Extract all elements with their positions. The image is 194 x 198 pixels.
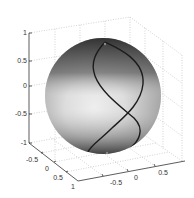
x-tick-label: 0 (45, 165, 49, 172)
sphere-plot: 1 0.5 0 -0.5 -1 -0.5 0 0.5 1 -0.5 0 0.5 (0, 0, 194, 198)
z-tick-label: 0.5 (17, 57, 27, 64)
y-tick-label: 0 (134, 174, 138, 181)
x-tick-label: -0.5 (26, 156, 38, 163)
y-axis (78, 161, 185, 181)
x-tick-label: 1 (71, 183, 75, 190)
y-tick-labels: -0.5 0 0.5 (110, 169, 168, 186)
z-tick-label: 1 (23, 29, 27, 36)
z-tick-labels: 1 0.5 0 -0.5 -1 (15, 29, 27, 146)
curve-marker-bottom (106, 152, 108, 154)
x-tick-label: 0.5 (53, 174, 63, 181)
z-tick-label: 0 (23, 82, 27, 89)
curve-marker-top (104, 43, 106, 45)
z-tick-label: -1 (21, 139, 27, 146)
y-tick-label: 0.5 (158, 169, 168, 176)
y-tick-label: -0.5 (110, 179, 122, 186)
z-tick-label: -0.5 (15, 110, 27, 117)
